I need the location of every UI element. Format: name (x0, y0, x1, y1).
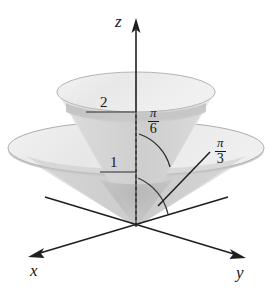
spherical-cones-figure: z x y 2 1 π 6 π 3 (0, 0, 273, 300)
x-axis-label: x (30, 262, 38, 279)
angle-label-pi-over-6: π 6 (148, 106, 159, 137)
pi-over-6-denominator: 6 (148, 122, 159, 137)
tick-label-1: 1 (110, 155, 118, 170)
pi-over-3-denominator: 3 (215, 152, 226, 167)
figure-canvas (0, 0, 273, 300)
pi-over-3-numerator: π (215, 136, 226, 150)
angle-label-pi-over-3: π 3 (215, 136, 226, 167)
tick-label-2: 2 (100, 95, 108, 110)
z-axis-label: z (115, 13, 122, 30)
pi-over-6-numerator: π (148, 106, 159, 120)
y-axis-label: y (236, 264, 244, 281)
